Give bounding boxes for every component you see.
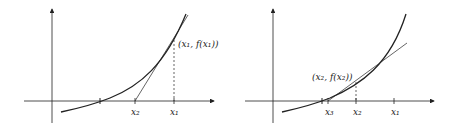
left-tangent-line [135, 15, 188, 101]
right-point-label: (x₂, f(x₂)) [312, 72, 353, 82]
left-figure: (x₁, f(x₁)) x₂ x₁ [24, 9, 219, 123]
left-x1-label: x₁ [170, 107, 179, 117]
right-figure: (x₂, f(x₂)) x₃ x₂ x₁ [245, 9, 434, 123]
right-x2-label: x₂ [353, 107, 362, 117]
right-x3-label: x₃ [325, 107, 334, 117]
newton-method-diagram: (x₁, f(x₁)) x₂ x₁ (x₂, f(x₂)) x₃ x₂ x₁ [0, 0, 458, 130]
right-x1-label: x₁ [391, 107, 400, 117]
right-curve [282, 14, 406, 112]
left-x2-label: x₂ [131, 107, 140, 117]
left-point-label: (x₁, f(x₁)) [178, 39, 219, 49]
left-curve [61, 14, 186, 112]
